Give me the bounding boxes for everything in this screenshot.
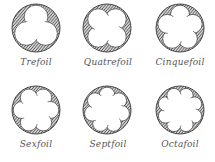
label-sexfoil: Sexfoil	[20, 139, 52, 149]
foils-diagram	[0, 0, 215, 162]
trefoil-shape	[12, 4, 60, 52]
sexfoil-shape	[12, 86, 60, 134]
septfoil-shape	[83, 86, 131, 134]
label-trefoil: Trefoil	[20, 57, 52, 67]
quatrefoil-shape	[83, 4, 131, 52]
label-quatrefoil: Quatrefoil	[84, 57, 132, 67]
cinquefoil-shape	[156, 4, 204, 52]
octafoil-shape	[156, 86, 204, 134]
label-septfoil: Septfoil	[90, 139, 127, 149]
label-cinquefoil: Cinquefoil	[156, 57, 205, 67]
label-octafoil: Octafoil	[161, 139, 199, 149]
